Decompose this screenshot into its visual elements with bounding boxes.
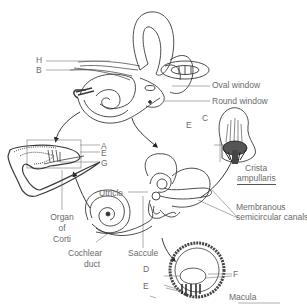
label-crista: Crista (245, 164, 267, 173)
label-c: C (202, 114, 208, 123)
label-corti: Corti (49, 235, 75, 244)
label-e-corti: E (101, 149, 107, 158)
label-semicircular-canals: semicircular canals (236, 213, 307, 222)
label-of: of (49, 224, 75, 233)
label-organ: Organ (49, 213, 75, 222)
label-round-window: Round window (212, 97, 268, 106)
crista-ampullaris-drawing (219, 108, 255, 164)
bony-cochlea (74, 74, 164, 123)
macula-drawing (164, 243, 232, 297)
label-e-macula: E (143, 282, 149, 291)
label-membranous: Membranous (236, 203, 286, 212)
label-d: D (143, 265, 149, 274)
label-cochlear: Cochlear (68, 249, 102, 258)
diagram-artwork (0, 0, 307, 307)
connector-arrows (56, 112, 236, 260)
label-oval-window: Oval window (212, 81, 260, 90)
label-g: G (101, 159, 108, 168)
label-ampullaris: ampullaris (237, 174, 276, 185)
label-e-crista: E (186, 121, 192, 130)
membranous-labyrinth (145, 154, 211, 219)
organ-of-corti-section (8, 140, 100, 196)
label-saccule: Saccule (128, 249, 158, 258)
label-f: F (233, 270, 238, 279)
label-macula: Macula (229, 293, 256, 302)
label-duct: duct (84, 260, 100, 269)
inner-ear-diagram: H B Oval window Round window C E Crista … (0, 0, 307, 307)
label-h: H (36, 56, 42, 65)
label-b: B (36, 66, 42, 75)
label-utricle: Utricle (99, 189, 123, 198)
bony-semicircular-canals (133, 12, 209, 94)
